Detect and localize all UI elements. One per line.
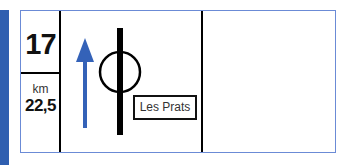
place-name-label: Les Prats [133, 95, 197, 120]
straight-arrow-icon [76, 38, 94, 128]
tulip-diagram [0, 0, 350, 165]
road-line-icon [117, 28, 123, 135]
